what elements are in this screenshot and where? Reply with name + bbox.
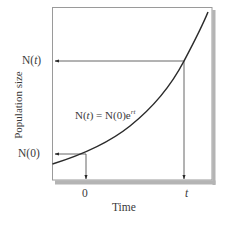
equation-rhs-base: N(0)e	[105, 109, 131, 121]
frame-shadow-right	[213, 10, 216, 185]
x-tick-t: t	[185, 188, 188, 200]
equation-lhs: N(t)	[75, 109, 93, 121]
x-tick-t-text: t	[185, 187, 188, 199]
y-tick-nt: N(t)	[22, 55, 41, 67]
x-tick-zero-text: 0	[82, 187, 88, 199]
growth-equation: N(t) = N(0)ert	[75, 109, 135, 121]
y-tick-n0: N(0)	[18, 148, 40, 160]
y-axis-label: Population size	[13, 71, 24, 139]
equation-equals: =	[96, 109, 102, 121]
x-tick-zero: 0	[82, 188, 88, 200]
y-tick-nt-text: N(t)	[22, 54, 41, 66]
x-axis-label: Time	[112, 202, 136, 214]
equation-exponent: rt	[131, 108, 136, 116]
y-tick-n0-text: N(0)	[18, 147, 40, 159]
frame-shadow-bottom	[55, 181, 216, 185]
